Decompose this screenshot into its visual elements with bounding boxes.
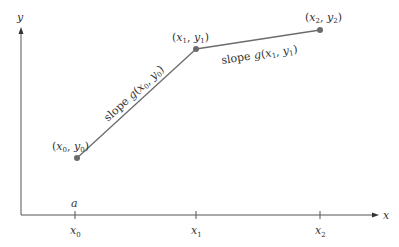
x-axis-arrow-icon bbox=[372, 213, 379, 218]
x-axis-label: x bbox=[383, 209, 390, 222]
slope-label-0: slope g(x0, y0) bbox=[101, 63, 167, 125]
tick-label-x2: x2 bbox=[315, 224, 326, 239]
segment-1 bbox=[196, 30, 320, 49]
tick-label-x1: x1 bbox=[191, 224, 202, 239]
tick-label-x0: x0 bbox=[70, 224, 81, 239]
x-ticks: a x0 x1 x2 bbox=[70, 197, 326, 239]
y-axis-label: y bbox=[16, 11, 24, 24]
slope-label-1: slope g(x1, y1) bbox=[220, 42, 298, 67]
euler-method-diagram: y x a x0 x1 x2 bbox=[0, 0, 399, 247]
y-axis-arrow-icon bbox=[19, 27, 24, 34]
point-p0 bbox=[74, 155, 80, 161]
point-p1 bbox=[193, 46, 199, 52]
tick-annotation-a: a bbox=[71, 197, 78, 210]
point-p2 bbox=[317, 27, 323, 33]
point-label-p2: (x2, y2) bbox=[305, 11, 342, 25]
point-label-p0: (x0, y0) bbox=[52, 140, 89, 154]
segment-0 bbox=[77, 49, 196, 158]
point-label-p1: (x1, y1) bbox=[172, 31, 209, 45]
